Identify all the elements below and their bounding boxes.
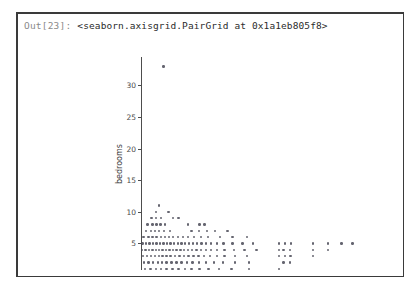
scatter-point [162, 65, 164, 67]
y-tick-label: 15 [126, 176, 136, 185]
scatter-point [177, 242, 179, 244]
scatter-point [158, 255, 160, 257]
scatter-point [203, 255, 205, 257]
scatter-point [177, 217, 179, 219]
scatter-point [207, 236, 209, 238]
y-axis-label: bedrooms [115, 144, 124, 184]
scatter-point [213, 261, 215, 263]
scatter-point [284, 255, 286, 257]
scatter-point [182, 236, 184, 238]
scatter-point [192, 242, 194, 244]
scatter-point [196, 242, 198, 244]
scatter-point [216, 255, 218, 257]
scatter-point [169, 230, 171, 232]
scatter-point [158, 230, 160, 232]
scatter-point [152, 242, 154, 244]
scatter-point [169, 242, 171, 244]
scatter-point [152, 261, 154, 263]
scatter-point [214, 230, 216, 232]
scatter-point [230, 268, 232, 270]
scatter-point [141, 249, 143, 251]
scatter-point [145, 230, 147, 232]
scatter-point [327, 249, 329, 251]
scatter-point [168, 236, 170, 238]
scatter-point [282, 261, 284, 263]
scatter-point [289, 249, 291, 251]
scatter-point [184, 242, 186, 244]
scatter-point [278, 268, 280, 270]
scatter-point [146, 255, 148, 257]
scatter-points-layer [141, 57, 387, 270]
scatter-point [183, 249, 185, 251]
scatter-point [231, 236, 233, 238]
scatter-point [327, 242, 329, 244]
scatter-point [191, 261, 193, 263]
object-repr-text: <seaborn.axisgrid.PairGrid at 0x1a1eb805… [77, 20, 327, 31]
scatter-point [216, 242, 218, 244]
scatter-point [187, 249, 189, 251]
scatter-point [340, 242, 342, 244]
scatter-point [205, 242, 207, 244]
scatter-point [216, 249, 218, 251]
scatter-point [155, 217, 157, 219]
y-tick-label: 10 [126, 207, 136, 216]
scatter-point [178, 255, 180, 257]
scatter-point [172, 217, 174, 219]
scatter-point [289, 261, 291, 263]
scatter-point [200, 249, 202, 251]
scatter-point [195, 249, 197, 251]
scatter-point [175, 249, 177, 251]
scatter-point [180, 242, 182, 244]
scatter-point [141, 242, 143, 244]
scatter-point [278, 255, 280, 257]
y-tick-label: 30 [126, 81, 136, 90]
scatter-point [312, 255, 314, 257]
scatter-point [222, 242, 224, 244]
scatter-point [198, 268, 200, 270]
scatter-point [187, 236, 189, 238]
scatter-point [150, 230, 152, 232]
scatter-point [231, 242, 233, 244]
scatter-point [210, 242, 212, 244]
scatter-point [198, 261, 200, 263]
scatter-point [145, 242, 147, 244]
scatter-point [248, 261, 250, 263]
scatter-point [166, 242, 168, 244]
scatter-point [187, 255, 189, 257]
scatter-point [151, 249, 153, 251]
scatter-point [187, 223, 189, 225]
scatter-point [161, 255, 163, 257]
scatter-point [158, 204, 160, 206]
scatter-point [210, 249, 212, 251]
scatter-point [155, 211, 157, 213]
scatter-point [192, 255, 194, 257]
scatter-point [154, 230, 156, 232]
scatter-point [243, 249, 245, 251]
scatter-point [155, 223, 157, 225]
scatter-point [148, 242, 150, 244]
scatter-point [160, 236, 162, 238]
scatter-point [177, 236, 179, 238]
scatter-point [164, 223, 166, 225]
scatter-point [219, 236, 221, 238]
scatter-point [168, 249, 170, 251]
scatter-point [203, 223, 205, 225]
scatter-point [206, 230, 208, 232]
output-prompt-row: Out[23]: <seaborn.axisgrid.PairGrid at 0… [24, 18, 328, 32]
matplotlib-figure: 51015202530 bedrooms [18, 34, 404, 277]
scatter-point [157, 261, 159, 263]
scatter-point [312, 249, 314, 251]
scatter-point [162, 242, 164, 244]
scatter-point [154, 255, 156, 257]
scatter-point [218, 268, 220, 270]
scatter-point [167, 211, 169, 213]
scatter-point [183, 255, 185, 257]
scatter-point [179, 249, 181, 251]
scatter-point [255, 249, 257, 251]
scatter-point [198, 223, 200, 225]
scatter-point [241, 242, 243, 244]
scatter-point [226, 230, 228, 232]
scatter-point [160, 268, 162, 270]
scatter-point [246, 255, 248, 257]
scatter-point [165, 261, 167, 263]
